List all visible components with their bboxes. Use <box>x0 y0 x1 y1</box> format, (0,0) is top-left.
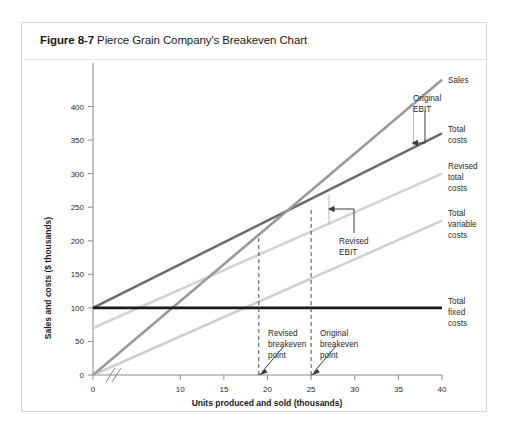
x-tick-30: 30 <box>350 385 359 394</box>
x-tick-40: 40 <box>438 385 447 394</box>
x-tick-15: 15 <box>219 385 228 394</box>
y-tick-400: 400 <box>71 103 85 112</box>
series-label-sales-text: Sales <box>448 76 468 85</box>
x-tick-10: 10 <box>176 385 185 394</box>
revised-ebit-line1: Revised <box>339 237 369 246</box>
series-label-total-fixed-costs-line2: fixed <box>448 308 466 317</box>
original-ebit-line1: Original <box>413 94 441 103</box>
series-label-revised-total-costs-line3: costs <box>448 184 467 193</box>
original-be-line2: breakeven <box>320 340 359 349</box>
x-tick-0: 0 <box>91 385 96 394</box>
series-label-sales: Sales <box>448 76 468 85</box>
revised-be-line2: breakeven <box>268 340 307 349</box>
breakeven-chart: 0 50 100 150 200 250 300 350 400 Sales a… <box>22 23 488 413</box>
y-axis-title: Sales and costs ($ thousands) <box>43 217 53 340</box>
series-label-total-fixed-costs-line3: costs <box>448 319 467 328</box>
series-label-revised-total-costs: Revised total costs <box>448 162 478 193</box>
series-label-total-variable-costs-line1: Total <box>448 209 465 218</box>
series-label-revised-total-costs-line2: total <box>448 173 464 182</box>
y-axis-tick-labels: 0 50 100 150 200 250 300 350 400 <box>71 103 85 381</box>
x-axis-ticks <box>93 375 442 380</box>
original-ebit-line2: EBIT <box>413 105 431 114</box>
y-tick-200: 200 <box>71 237 85 246</box>
original-ebit-label: Original EBIT <box>413 94 441 114</box>
revised-ebit-line2: EBIT <box>339 248 357 257</box>
original-be-line1: Original <box>320 329 348 338</box>
x-axis-tick-labels: 0 10 15 20 25 30 35 40 <box>91 385 447 394</box>
series-label-total-variable-costs-line3: costs <box>448 231 467 240</box>
x-tick-25: 25 <box>307 385 316 394</box>
series-label-total-costs: Total costs <box>448 125 467 145</box>
figure-container: Figure 8-7 Pierce Grain Company's Breake… <box>21 22 487 412</box>
revised-be-line1: Revised <box>268 329 298 338</box>
y-tick-300: 300 <box>71 170 85 179</box>
series-label-total-fixed-costs-line1: Total <box>448 297 465 306</box>
series-label-total-costs-line2: costs <box>448 136 467 145</box>
series-label-total-variable-costs: Total variable costs <box>448 209 477 240</box>
y-tick-250: 250 <box>71 203 85 212</box>
revised-breakeven-annotation: Revised breakeven point <box>268 329 307 360</box>
revised-be-line3: point <box>268 351 286 360</box>
y-tick-100: 100 <box>71 304 85 313</box>
y-tick-50: 50 <box>75 337 84 346</box>
series-line-revised-total-costs <box>93 174 442 328</box>
x-axis-title: Units produced and sold (thousands) <box>192 398 343 408</box>
original-be-line3: point <box>320 351 338 360</box>
series-label-revised-total-costs-line1: Revised <box>448 162 478 171</box>
original-breakeven-annotation: Original breakeven point <box>320 329 359 360</box>
plot-area: 0 50 100 150 200 250 300 350 400 Sales a… <box>22 23 488 413</box>
x-tick-35: 35 <box>394 385 403 394</box>
series-label-total-variable-costs-line2: variable <box>448 220 477 229</box>
series-label-total-fixed-costs: Total fixed costs <box>448 297 467 328</box>
y-axis-ticks <box>88 107 93 376</box>
series-label-total-costs-line1: Total <box>448 125 465 134</box>
y-tick-0: 0 <box>80 371 85 380</box>
y-tick-150: 150 <box>71 270 85 279</box>
series-line-total-costs <box>93 133 442 308</box>
x-tick-20: 20 <box>263 385 272 394</box>
y-tick-350: 350 <box>71 136 85 145</box>
